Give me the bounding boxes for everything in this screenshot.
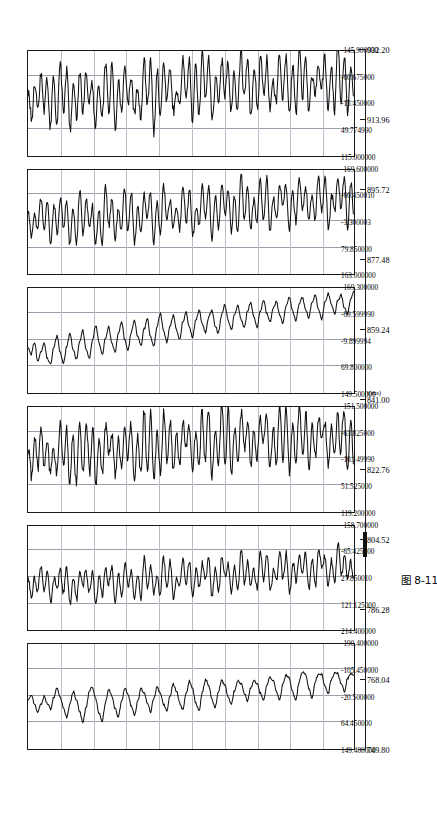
time-tick-label: 859.24 — [367, 326, 390, 335]
scale-value-label: 163.000000 — [341, 272, 376, 281]
time-tick-label: 768.04 — [367, 676, 390, 685]
scale-value-label: -20.500000 — [341, 693, 374, 702]
scale-value-label: 64.450000 — [341, 720, 372, 729]
time-tick — [360, 259, 366, 260]
time-tick — [358, 749, 366, 750]
time-tick-label: 932.20 — [367, 46, 390, 55]
scale-value-label: 27.850010 — [341, 574, 372, 583]
time-tick — [360, 189, 366, 190]
scale-value-label: 51.525000 — [341, 482, 372, 491]
log-track[interactable]: IBP1_L1() — [27, 643, 355, 750]
figure-stage: IBP1_L1()IBP1_L2()IBP1_L3()IBN1_L1()IBN1… — [9, 8, 429, 808]
track-scale-labels: 149.50000069.800000-9.899994-69.599990-1… — [339, 287, 423, 394]
time-tick — [358, 49, 366, 50]
time-axis-unit-label: t(ms) — [367, 389, 381, 396]
scale-value-label: -65.425000 — [341, 548, 374, 557]
log-track[interactable]: IBN1_L1() — [27, 287, 355, 394]
time-tick-label: 804.52 — [367, 536, 390, 545]
time-tick-label: 749.80 — [367, 746, 390, 755]
scale-value-label: -60.675000 — [341, 73, 374, 82]
caption-number: 图 8-11 — [401, 574, 437, 586]
scale-value-label: -63.825000 — [341, 429, 374, 438]
log-track[interactable]: IBN1_L2() — [27, 169, 355, 276]
time-tick — [360, 399, 366, 400]
time-tick — [360, 609, 366, 610]
log-track[interactable]: IBN1_L3() — [27, 50, 355, 157]
time-tick-label: 877.48 — [367, 256, 390, 265]
scale-value-label: -15.450000 — [341, 100, 374, 109]
time-tick-label: 895.72 — [367, 186, 390, 195]
scale-value-label: 49.774990 — [341, 126, 372, 135]
log-track[interactable]: IBP1_L2() — [27, 525, 355, 632]
scale-value-label: -158.700000 — [341, 521, 378, 530]
scale-value-label: -169.300000 — [341, 284, 378, 293]
scale-value-label: -69.599990 — [341, 310, 374, 319]
waveform-curve — [28, 170, 354, 275]
waveform-curve — [28, 51, 354, 156]
scale-value-label: 115.000000 — [341, 153, 375, 162]
time-tick — [360, 329, 366, 330]
track-scale-labels: 119.20000051.525000-16.149990-63.825000-… — [339, 406, 423, 513]
scale-value-label: -105.450000 — [341, 666, 378, 675]
waveform-curve — [28, 526, 354, 631]
time-tick-label: 822.76 — [367, 466, 390, 475]
scale-value-label: 69.800000 — [341, 364, 372, 373]
time-tick-label: 786.28 — [367, 606, 390, 615]
figure-caption: 图 8-11局部放大后的桥臂电流波形 — [401, 572, 437, 587]
scale-value-label: -190.400000 — [341, 640, 378, 649]
scale-value-label: 214.400000 — [341, 628, 376, 637]
time-tick-label: 913.96 — [367, 116, 390, 125]
time-tick — [360, 119, 366, 120]
time-axis-line — [365, 50, 366, 750]
plot-area: IBP1_L1()IBP1_L2()IBP1_L3()IBN1_L1()IBN1… — [27, 50, 355, 750]
waveform-curve — [28, 288, 354, 393]
track-scale-labels: 149.40000064.450000-20.500000-105.450000… — [339, 643, 423, 750]
time-range-marker[interactable] — [362, 532, 367, 557]
scale-value-label: 79.850000 — [341, 245, 372, 254]
waveform-curve — [28, 407, 354, 512]
time-axis — [365, 50, 366, 750]
scale-value-label: -169.600000 — [341, 165, 378, 174]
time-tick-label: 841.00 — [367, 396, 390, 405]
scale-value-label: -16.149990 — [341, 456, 374, 465]
track-scale-labels: 115.00000049.774990-15.450000-60.675000-… — [339, 50, 423, 157]
time-tick — [360, 469, 366, 470]
waveform-curve — [28, 644, 354, 749]
time-tick — [360, 679, 366, 680]
scale-value-label: 119.200000 — [341, 509, 375, 518]
log-track[interactable]: IBP1_L3() — [27, 406, 355, 513]
